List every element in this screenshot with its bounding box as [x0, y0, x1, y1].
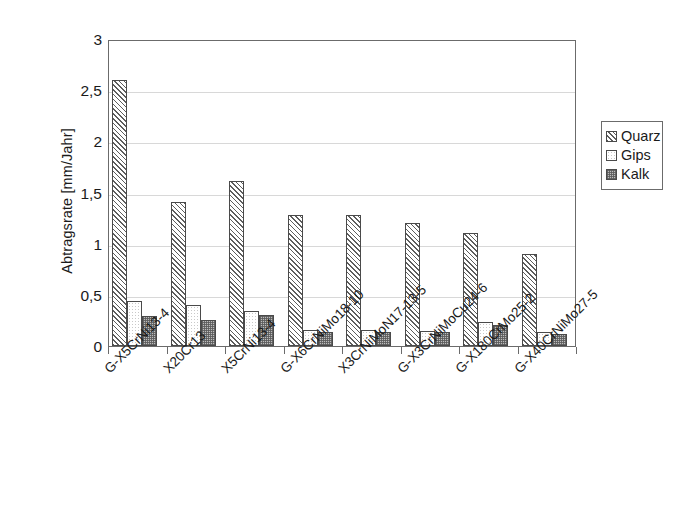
legend-swatch-icon: [606, 150, 617, 161]
x-axis-label: X5CrNi13-4: [218, 316, 278, 376]
legend-label: Kalk: [621, 167, 649, 182]
x-axis-tick-labels: G-X5CrNi13-4X20Cr13X5CrNi13-4G-X6CrNiMo1…: [0, 0, 697, 524]
legend-item-quarz: Quarz: [606, 127, 657, 146]
legend-swatch-icon: [606, 131, 617, 142]
legend-item-kalk: Kalk: [606, 165, 657, 184]
legend-label: Quarz: [621, 129, 661, 144]
x-axis-label: X20Cr13: [160, 328, 208, 376]
legend-item-gips: Gips: [606, 146, 657, 165]
legend-swatch-icon: [606, 169, 617, 180]
bar-chart: Abtragsrate [mm/Jahr] 00,511,522,53 G-X5…: [0, 0, 697, 524]
legend: QuarzGipsKalk: [601, 121, 663, 190]
legend-label: Gips: [621, 148, 651, 163]
